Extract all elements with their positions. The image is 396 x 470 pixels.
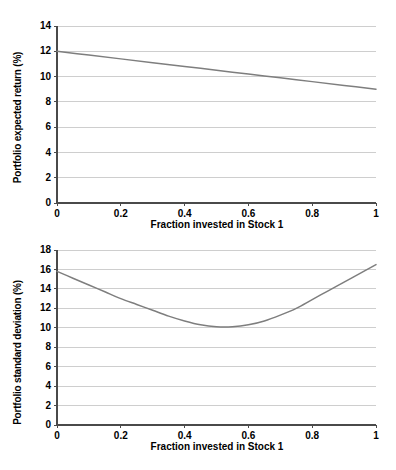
y-tick-label: 8	[45, 96, 51, 107]
x-tick-label: 0	[54, 430, 60, 441]
y-tick-label: 10	[40, 71, 52, 82]
y-tick-label: 18	[40, 244, 52, 255]
y-tick-label: 4	[45, 147, 51, 158]
x-tick-labels-top: 00.20.40.60.81	[54, 208, 379, 219]
data-line-expected-return	[57, 51, 376, 89]
y-tick-label: 2	[45, 400, 51, 411]
x-tick-label: 0.8	[305, 430, 319, 441]
tickmarks-top	[54, 26, 376, 206]
y-tick-label: 6	[45, 361, 51, 372]
chart-page: Portfolio expected return (%) 0246810121…	[0, 0, 396, 470]
y-tick-label: 14	[40, 283, 52, 294]
y-tick-label: 4	[45, 380, 51, 391]
y-tick-label: 0	[45, 419, 51, 430]
x-tick-label: 0.2	[114, 208, 128, 219]
x-tick-label: 1	[373, 430, 379, 441]
plot-svg-top: 02468101214 00.20.40.60.81 Fraction inve…	[0, 0, 396, 235]
x-tick-label: 0.6	[241, 430, 255, 441]
y-tick-labels-bottom: 024681012141618	[40, 244, 52, 430]
chart-portfolio-standard-deviation: Portfolio standard deviation (%) 0246810…	[0, 235, 396, 470]
x-axis-label-bottom: Fraction invested in Stock 1	[151, 441, 284, 452]
x-axis-label-top: Fraction invested in Stock 1	[151, 219, 284, 230]
plot-area-bottom: 024681012141618 00.20.40.60.81 Fraction …	[0, 235, 396, 470]
x-tick-labels-bottom: 00.20.40.60.81	[54, 430, 379, 441]
plot-svg-bottom: 024681012141618 00.20.40.60.81 Fraction …	[0, 235, 396, 470]
y-tick-label: 12	[40, 45, 52, 56]
gridlines-top	[57, 26, 376, 178]
plot-area-top: 02468101214 00.20.40.60.81 Fraction inve…	[0, 0, 396, 235]
x-tick-label: 0.4	[178, 208, 192, 219]
gridlines-bottom	[57, 250, 376, 406]
y-tick-label: 6	[45, 121, 51, 132]
y-tick-label: 14	[40, 20, 52, 31]
y-tick-label: 12	[40, 302, 52, 313]
y-tick-label: 2	[45, 172, 51, 183]
x-tick-label: 0.8	[305, 208, 319, 219]
x-tick-label: 0.6	[241, 208, 255, 219]
x-tick-label: 0.4	[178, 430, 192, 441]
y-tick-label: 16	[40, 264, 52, 275]
x-tick-label: 0	[54, 208, 60, 219]
data-line-standard-deviation	[57, 265, 376, 327]
y-tick-label: 0	[45, 197, 51, 208]
chart-portfolio-expected-return: Portfolio expected return (%) 0246810121…	[0, 0, 396, 235]
y-tick-labels-top: 02468101214	[40, 20, 52, 208]
y-tick-label: 10	[40, 322, 52, 333]
y-tick-label: 8	[45, 341, 51, 352]
tickmarks-bottom	[54, 250, 376, 428]
x-tick-label: 1	[373, 208, 379, 219]
x-tick-label: 0.2	[114, 430, 128, 441]
